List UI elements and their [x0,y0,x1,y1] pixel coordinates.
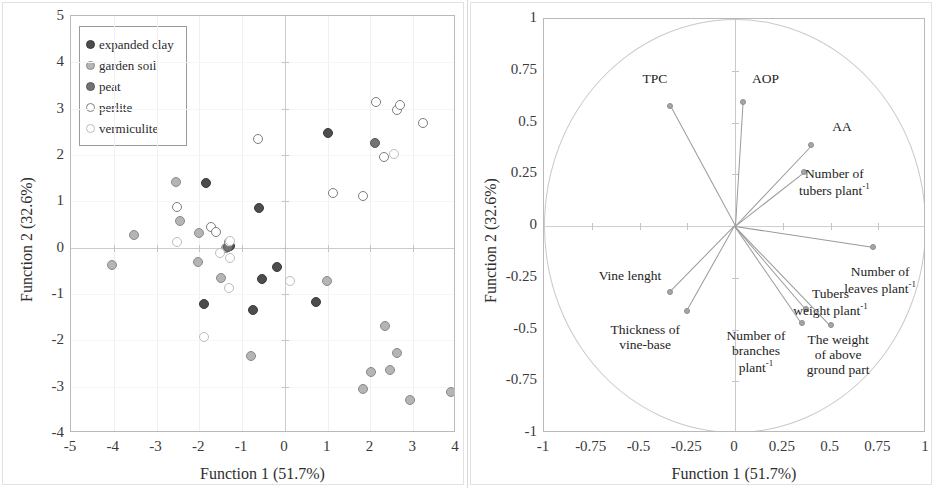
loading-vector-endpoint [740,99,746,105]
loading-vector-label: Vine lenght [599,268,662,283]
axis-tickmark [878,223,879,230]
y-tick-label: -2 [36,332,64,347]
loading-vector-label: Thickness ofvine-base [611,322,680,352]
axis-tickmark [282,62,289,63]
x-tick-label: -1 [521,439,565,454]
axis-tickmark [732,381,739,382]
gridline-horizontal [71,201,455,202]
legend-marker-icon [86,103,95,112]
scatter-point [193,257,203,267]
y-tick-label: 0 [36,240,64,255]
axis-tickmark [592,223,593,230]
y-tick-label: 2 [36,147,64,162]
legend-item-garden-soil[interactable]: garden soil [86,55,180,75]
x-tick-label: 3 [397,439,427,454]
axis-tickmark [640,223,641,230]
loading-vector-label: Tubersweight plant-1 [793,286,868,318]
scatter-point [246,351,256,361]
y-tick-label: -0.5 [495,321,537,336]
loading-vector-label: AOP [752,71,779,86]
x-tick-label: 0.75 [855,439,899,454]
scatter-point [172,237,182,247]
gridline-vertical [114,16,115,432]
y-tick-label: 0.25 [495,165,537,180]
scatter-point [328,188,338,198]
x-tick-label: 1 [312,439,342,454]
gridline-horizontal [71,248,455,249]
gridline-vertical [413,16,414,432]
loading-vector-label: TPC [642,71,667,86]
legend-item-label: perlite [99,101,132,114]
axis-tickmark [328,245,329,252]
legend-marker-icon [86,82,95,91]
scatter-point [253,134,263,144]
axis-tickmark [282,109,289,110]
y-tick-label: -3 [36,379,64,394]
scatter-point [224,283,234,293]
y-tick-label: 0.75 [495,62,537,77]
loading-vector-label: The weightof aboveground part [807,332,870,377]
scatter-point [211,227,221,237]
y-tick-label: 3 [36,101,64,116]
loadings-biplot-panel: TPCAOPAANumber oftubers plant-1Number of… [468,0,936,488]
materials-legend: expanded claygarden soilpeatperlitevermi… [79,26,187,146]
gridline-vertical [328,16,329,432]
left-x-axis-title: Function 1 (51.7%) [183,465,343,483]
x-tick-label: -4 [98,439,128,454]
legend-item-peat[interactable]: peat [86,76,180,96]
y-tick-label: -1 [495,424,537,439]
axis-tickmark [413,245,414,252]
y-tick-label: -0.25 [495,269,537,284]
right-x-axis-title: Function 1 (51.7%) [654,465,814,483]
x-tick-label: -2 [183,439,213,454]
scatter-point [194,228,204,238]
axis-tickmark [285,245,286,252]
gridline-vertical [285,16,286,432]
axis-tickmark [157,245,158,252]
y-tick-label: -4 [36,425,64,440]
scatter-point [392,348,402,358]
x-tick-label: 2 [354,439,384,454]
scatter-point [172,202,182,212]
scatter-point [171,177,181,187]
legend-item-expanded-clay[interactable]: expanded clay [86,34,180,54]
axis-tickmark [282,340,289,341]
loading-vector-endpoint [667,103,673,109]
loading-vector-label: Number ofbranchesplant-1 [727,328,786,375]
axis-tickmark [687,223,688,230]
scatter-point [201,178,211,188]
y-tick-label: 1 [495,10,537,25]
axis-tickmark [831,223,832,230]
scatter-point [379,152,389,162]
axis-tickmark [732,123,739,124]
scatter-point [418,118,428,128]
scatter-point [385,365,395,375]
loadings-plot-area: TPCAOPAANumber oftubers plant-1Number of… [543,18,925,432]
x-tick-label: 1 [903,439,936,454]
gridline-vertical [157,16,158,432]
scatter-point [380,321,390,331]
scatter-point [254,203,264,213]
axis-tickmark [114,245,115,252]
axis-tickmark [199,245,200,252]
scatter-point [405,395,415,405]
right-y-axis-title: Function 2 (32.6%) [482,178,500,303]
scatter-point [129,230,139,240]
scores-plot-area: expanded claygarden soilpeatperlitevermi… [70,15,455,432]
loading-vector-label: AA [832,119,852,134]
scatter-point [366,367,376,377]
legend-item-vermiculite[interactable]: vermiculite [86,118,180,138]
legend-item-perlite[interactable]: perlite [86,97,180,117]
loading-vector-label: Number oftubers plant-1 [799,166,870,198]
axis-tickmark [242,245,243,252]
scatter-point [175,216,185,226]
scatter-point [389,149,399,159]
legend-item-label: peat [99,80,121,93]
legend-item-label: expanded clay [99,38,174,51]
gridline-vertical [199,16,200,432]
discriminant-analysis-figure: expanded claygarden soilpeatperlitevermi… [0,0,936,488]
axis-tickmark [370,245,371,252]
gridline-horizontal [71,387,455,388]
legend-marker-icon [86,124,95,133]
legend-item-label: vermiculite [99,122,158,135]
